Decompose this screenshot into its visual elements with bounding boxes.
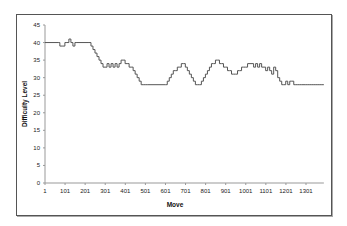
y-tick-label: 20 bbox=[33, 110, 40, 116]
y-tick-label: 35 bbox=[33, 57, 40, 63]
y-axis-label: Difficulty Level bbox=[21, 81, 29, 127]
x-tick-label: 901 bbox=[221, 188, 232, 194]
y-tick-label: 25 bbox=[33, 92, 40, 98]
y-tick-label: 45 bbox=[33, 22, 40, 28]
x-tick-label: 301 bbox=[100, 188, 111, 194]
x-tick-label: 201 bbox=[80, 188, 91, 194]
y-tick-label: 30 bbox=[33, 75, 40, 81]
x-tick-label: 801 bbox=[201, 188, 212, 194]
x-tick-label: 1201 bbox=[279, 188, 293, 194]
y-tick-label: 5 bbox=[37, 162, 41, 168]
x-tick-label: 601 bbox=[160, 188, 171, 194]
y-tick-label: 0 bbox=[37, 180, 41, 186]
x-tick-label: 1101 bbox=[259, 188, 273, 194]
x-tick-label: 1 bbox=[43, 188, 47, 194]
x-tick-label: 501 bbox=[140, 188, 151, 194]
y-axis: 051015202530354045 bbox=[33, 22, 45, 186]
y-tick-label: 10 bbox=[33, 145, 40, 151]
y-tick-label: 40 bbox=[33, 40, 40, 46]
x-axis-label: Move bbox=[167, 201, 184, 208]
x-tick-label: 101 bbox=[60, 188, 71, 194]
line-chart: 051015202530354045 110120130140150160170… bbox=[0, 0, 347, 226]
x-tick-label: 401 bbox=[120, 188, 131, 194]
x-tick-label: 1301 bbox=[299, 188, 313, 194]
x-tick-label: 701 bbox=[181, 188, 192, 194]
y-tick-label: 15 bbox=[33, 127, 40, 133]
x-axis: 1101201301401501601701801901100111011201… bbox=[43, 183, 324, 194]
x-tick-label: 1001 bbox=[239, 188, 253, 194]
difficulty-line bbox=[45, 39, 324, 85]
